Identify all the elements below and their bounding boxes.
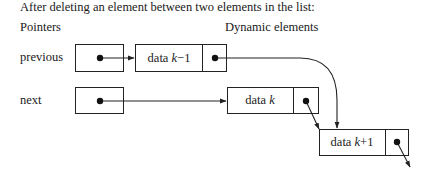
node-k-pointer-dot xyxy=(303,98,309,104)
previous-pointer-dot xyxy=(97,55,103,61)
node-k-minus-1-pointer-dot xyxy=(212,55,218,61)
pointer-arrows xyxy=(0,0,430,175)
node-k-plus-1-next-arrow xyxy=(397,142,410,167)
next-pointer-dot xyxy=(97,98,103,104)
node-k-plus-1-pointer-dot xyxy=(394,139,400,145)
bypass-arrow xyxy=(215,58,337,128)
node-k-next-arrow xyxy=(306,101,319,129)
